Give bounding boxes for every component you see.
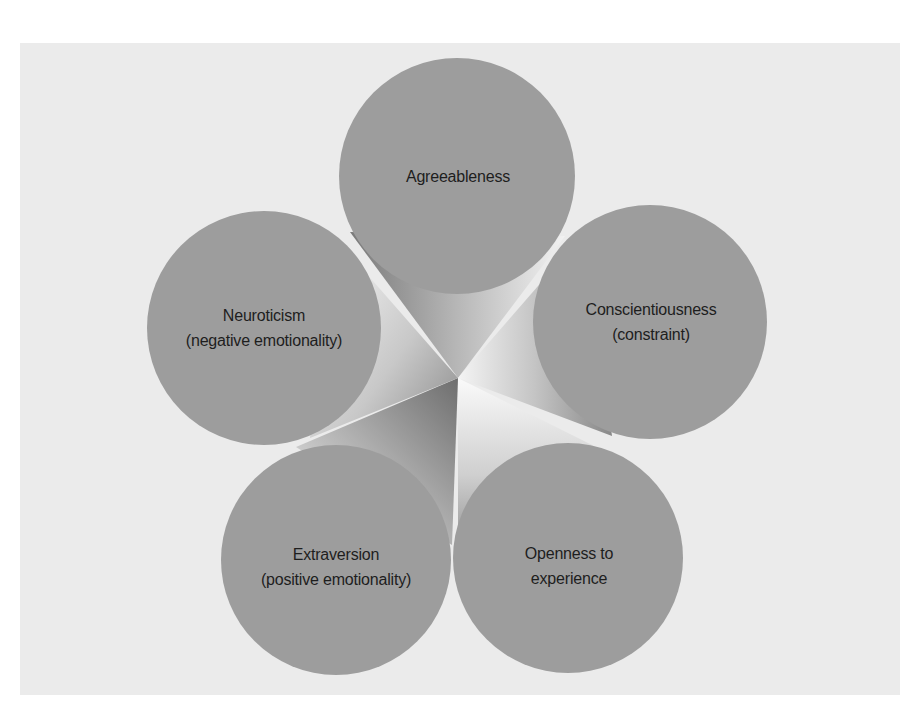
label-extraversion-line1: Extraversion <box>261 542 411 567</box>
label-agreeableness: Agreeableness <box>406 164 510 189</box>
label-neuroticism-line2: (negative emotionality) <box>186 328 342 353</box>
label-agreeableness-line1: Agreeableness <box>406 164 510 189</box>
five-factor-diagram <box>0 0 920 728</box>
label-neuroticism-line1: Neuroticism <box>186 303 342 328</box>
label-conscientiousness-line1: Conscientiousness <box>586 297 717 322</box>
label-neuroticism: Neuroticism (negative emotionality) <box>186 303 342 353</box>
label-conscientiousness-line2: (constraint) <box>586 322 717 347</box>
label-openness: Openness to experience <box>525 541 614 591</box>
label-extraversion-line2: (positive emotionality) <box>261 567 411 592</box>
label-openness-line1: Openness to <box>525 541 614 566</box>
label-extraversion: Extraversion (positive emotionality) <box>261 542 411 592</box>
label-openness-line2: experience <box>525 566 614 591</box>
label-conscientiousness: Conscientiousness (constraint) <box>586 297 717 347</box>
